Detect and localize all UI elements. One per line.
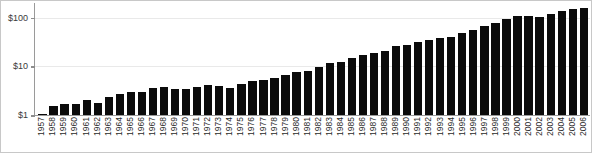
x-tick-label: 1961 <box>82 117 91 136</box>
bar <box>304 71 312 115</box>
bar-slot <box>291 3 302 115</box>
bar <box>83 100 91 115</box>
bar <box>182 89 190 115</box>
x-label-slot: 2003 <box>545 117 556 153</box>
x-tick-label: 2002 <box>535 117 544 136</box>
bar <box>381 51 389 115</box>
x-tick-label: 1986 <box>358 117 367 136</box>
x-label-slot: 1961 <box>80 117 91 153</box>
x-label-slot: 1977 <box>257 117 268 153</box>
bar <box>558 11 566 115</box>
x-tick-label: 1968 <box>159 117 168 136</box>
x-label-slot: 1986 <box>357 117 368 153</box>
bar-slot <box>346 3 357 115</box>
x-label-slot: 1963 <box>102 117 113 153</box>
x-tick-label: 2000 <box>513 117 522 136</box>
bar-slot <box>192 3 203 115</box>
bar-slot <box>501 3 512 115</box>
bar <box>237 84 245 115</box>
bar-slot <box>258 3 269 115</box>
bar-slot <box>48 3 59 115</box>
x-label-slot: 1973 <box>213 117 224 153</box>
chart-container: $100$10$1 195719581959196019611962196319… <box>0 0 592 153</box>
bar <box>414 42 422 115</box>
bar <box>458 33 466 115</box>
x-tick-label: 1976 <box>247 117 256 136</box>
x-tick-label: 1983 <box>325 117 334 136</box>
bar <box>138 92 146 115</box>
x-label-slot: 1965 <box>125 117 136 153</box>
bar-slot <box>368 3 379 115</box>
x-tick-label: 1971 <box>192 117 201 136</box>
bar <box>513 16 521 115</box>
bar <box>480 26 488 115</box>
bar <box>248 81 256 115</box>
x-label-slot: 1969 <box>169 117 180 153</box>
x-tick-label: 1999 <box>502 117 511 136</box>
bar-slot <box>523 3 534 115</box>
x-tick-label: 1989 <box>391 117 400 136</box>
x-tick-label: 1967 <box>148 117 157 136</box>
x-axis-labels: 1957195819591960196119621963196419651966… <box>34 117 590 153</box>
x-tick-label: 1993 <box>436 117 445 136</box>
bar-slot <box>578 3 589 115</box>
x-tick-label: 1977 <box>259 117 268 136</box>
x-label-slot: 1982 <box>313 117 324 153</box>
bar-slot <box>324 3 335 115</box>
bar <box>204 85 212 115</box>
x-tick-label: 1969 <box>170 117 179 136</box>
bar <box>569 9 577 115</box>
bar-slot <box>313 3 324 115</box>
x-label-slot: 1966 <box>136 117 147 153</box>
x-tick-label: 1975 <box>236 117 245 136</box>
x-label-slot: 1960 <box>69 117 80 153</box>
bar <box>580 8 588 115</box>
bar-slot <box>567 3 578 115</box>
bar <box>535 17 543 115</box>
bar <box>315 67 323 115</box>
bar-slot <box>125 3 136 115</box>
bar-slot <box>534 3 545 115</box>
x-label-slot: 1957 <box>36 117 47 153</box>
bar-slot <box>280 3 291 115</box>
x-tick-label: 1982 <box>314 117 323 136</box>
bar <box>292 72 300 115</box>
x-tick-label: 2004 <box>557 117 566 136</box>
bar-slot <box>302 3 313 115</box>
x-tick-label: 1991 <box>413 117 422 136</box>
bar-series <box>35 3 590 115</box>
x-tick-label: 1997 <box>480 117 489 136</box>
bar-slot <box>114 3 125 115</box>
x-label-slot: 1984 <box>335 117 346 153</box>
bar-slot <box>225 3 236 115</box>
bar <box>547 14 555 115</box>
x-tick-label: 1978 <box>270 117 279 136</box>
bar <box>38 114 46 115</box>
x-tick-label: 1987 <box>369 117 378 136</box>
plot-area: $100$10$1 <box>34 3 590 116</box>
bar-slot <box>435 3 446 115</box>
bar-slot <box>59 3 70 115</box>
x-label-slot: 1975 <box>235 117 246 153</box>
x-label-slot: 1991 <box>412 117 423 153</box>
bar-slot <box>391 3 402 115</box>
x-tick-label: 1974 <box>225 117 234 136</box>
bar-slot <box>357 3 368 115</box>
bar <box>403 45 411 115</box>
x-label-slot: 2005 <box>567 117 578 153</box>
bar <box>436 38 444 115</box>
x-label-slot: 1994 <box>445 117 456 153</box>
x-label-slot: 1974 <box>224 117 235 153</box>
x-tick-label: 1985 <box>347 117 356 136</box>
bar-slot <box>103 3 114 115</box>
x-tick-label: 1962 <box>93 117 102 136</box>
x-tick-label: 1970 <box>181 117 190 136</box>
x-tick-label: 1984 <box>336 117 345 136</box>
bar <box>149 88 157 115</box>
bar <box>105 97 113 116</box>
x-label-slot: 1980 <box>290 117 301 153</box>
bar-slot <box>136 3 147 115</box>
x-label-slot: 1993 <box>434 117 445 153</box>
bar <box>337 62 345 115</box>
x-tick-label: 1964 <box>115 117 124 136</box>
